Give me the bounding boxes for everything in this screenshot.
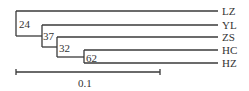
- leaf-label-hc: HC: [222, 44, 237, 56]
- leaf-label-yl: YL: [222, 19, 237, 31]
- scale-bar-label: 0.1: [78, 77, 92, 89]
- support-value-24: 24: [19, 18, 31, 30]
- support-value-37: 37: [43, 30, 55, 42]
- leaf-label-lz: LZ: [222, 5, 236, 17]
- leaf-label-hz: HZ: [222, 57, 237, 69]
- support-value-62: 62: [86, 52, 97, 64]
- support-value-32: 32: [59, 42, 70, 54]
- leaf-label-zs: ZS: [222, 31, 235, 43]
- phylogenetic-tree: 24 37 32 62 LZ YL ZS HC HZ 0.1: [0, 0, 249, 91]
- scale-bar: [16, 69, 160, 75]
